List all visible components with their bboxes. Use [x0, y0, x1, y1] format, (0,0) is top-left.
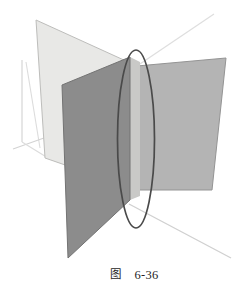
figure-illustration	[0, 0, 245, 302]
caption-number: 6-36	[135, 269, 159, 282]
figure-container: 图 6-36	[0, 0, 245, 302]
caption-label: 图	[110, 269, 121, 281]
plane-right-mid	[137, 58, 226, 190]
plane-intersection-strip	[130, 57, 140, 200]
figure-caption: 图 6-36	[0, 262, 245, 288]
